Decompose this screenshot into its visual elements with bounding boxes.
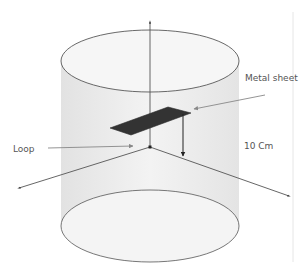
loop-label: Loop bbox=[13, 144, 35, 154]
distance-label: 10 Cm bbox=[244, 141, 273, 151]
cylinder-bottom-ellipse bbox=[61, 190, 239, 262]
cylinder-diagram bbox=[0, 0, 308, 275]
loop-point bbox=[149, 146, 152, 149]
metal-sheet-label: Metal sheet bbox=[245, 73, 298, 83]
